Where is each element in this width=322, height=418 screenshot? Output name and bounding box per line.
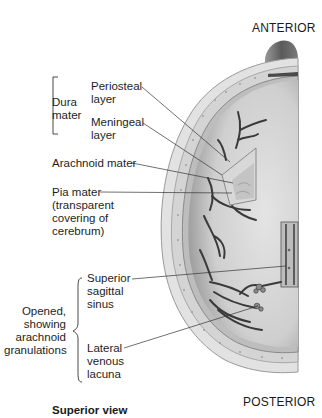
arachnoid-mater-label: Arachnoid mater bbox=[52, 157, 136, 170]
periosteal-layer-label: Periosteal layer bbox=[91, 80, 142, 106]
sinus-window bbox=[281, 222, 298, 287]
lateral-venous-lacuna-label: Lateral venous lacuna bbox=[87, 342, 124, 381]
opened-bracket bbox=[73, 278, 82, 382]
meningeal-layer-label: Meningeal layer bbox=[91, 116, 144, 142]
superior-sagittal-sinus-label: Superior sagittal sinus bbox=[87, 272, 130, 311]
posterior-label: POSTERIOR bbox=[243, 395, 315, 409]
opened-granulations-label: Opened, showing arachnoid granulations bbox=[4, 305, 66, 357]
pia-mater-label: Pia mater (transparent covering of cereb… bbox=[52, 186, 114, 238]
view-caption: Superior view bbox=[52, 404, 127, 416]
anterior-label: ANTERIOR bbox=[252, 21, 316, 35]
dura-mater-label: Dura mater bbox=[52, 96, 81, 122]
